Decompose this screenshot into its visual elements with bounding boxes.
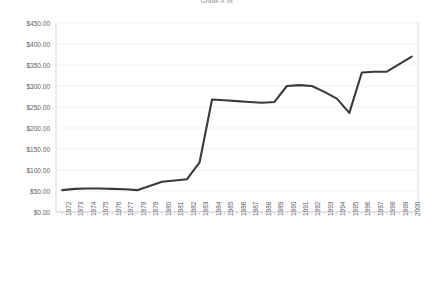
x-tick-label: 1984: [215, 202, 222, 216]
y-tick-label: $100.00: [0, 167, 50, 174]
x-tick-label: 1997: [377, 202, 384, 216]
x-tick-label: 1972: [65, 202, 72, 216]
x-tick-label: 1994: [339, 202, 346, 216]
x-tick-label: 1996: [364, 202, 371, 216]
x-tick-label: 1986: [240, 202, 247, 216]
y-tick-label: $300.00: [0, 83, 50, 90]
x-tick-label: 1975: [102, 202, 109, 216]
x-tick-label: 1987: [252, 202, 259, 216]
x-tick-label: 1988: [265, 202, 272, 216]
y-tick-label: $50.00: [0, 188, 50, 195]
gridlines: [56, 23, 418, 212]
x-tick-label: 1998: [389, 202, 396, 216]
x-tick-label: 2000: [414, 202, 421, 216]
x-tick-label: 1985: [227, 202, 234, 216]
y-tick-label: $150.00: [0, 146, 50, 153]
x-tick-label: 1982: [190, 202, 197, 216]
x-tick-label: 1983: [202, 202, 209, 216]
chart-container: Grade A vs $0.00$50.00$100.00$150.00$200…: [0, 0, 434, 284]
x-tick-label: 1980: [165, 202, 172, 216]
y-tick-label: $350.00: [0, 62, 50, 69]
x-tick-label: 1978: [140, 202, 147, 216]
axis-lines: [56, 23, 418, 212]
x-tick-label: 1993: [327, 202, 334, 216]
x-tick-label: 1977: [127, 202, 134, 216]
y-tick-label: $0.00: [0, 209, 50, 216]
x-tick-label: 1989: [277, 202, 284, 216]
x-tick-label: 1995: [352, 202, 359, 216]
x-tick-label: 1990: [290, 202, 297, 216]
y-tick-label: $200.00: [0, 125, 50, 132]
y-tick-label: $250.00: [0, 104, 50, 111]
x-tick-label: 1981: [177, 202, 184, 216]
x-tick-label: 1992: [314, 202, 321, 216]
plot-area: [0, 0, 434, 284]
y-tick-label: $400.00: [0, 41, 50, 48]
x-tick-label: 1991: [302, 202, 309, 216]
x-tick-label: 1999: [402, 202, 409, 216]
x-tick-label: 1976: [115, 202, 122, 216]
x-tick-label: 1979: [152, 202, 159, 216]
y-tick-label: $450.00: [0, 20, 50, 27]
x-tick-label: 1973: [77, 202, 84, 216]
x-tick-label: 1974: [90, 202, 97, 216]
